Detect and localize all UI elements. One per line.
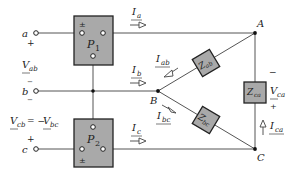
terminal-c: c +	[22, 134, 38, 155]
terminal-b: b − −	[22, 78, 38, 104]
p2-pm-mark: ±	[79, 156, 86, 165]
arrow-head-icon	[164, 70, 173, 77]
svg-text:A: A	[256, 18, 264, 29]
svg-text:Z: Z	[246, 87, 254, 97]
p1-sub: 1	[95, 44, 100, 53]
terminal-a-circle	[34, 31, 39, 36]
svg-text:bc: bc	[50, 121, 58, 129]
svg-text:bc: bc	[162, 116, 170, 124]
p1-pm-mark: ±	[79, 20, 86, 29]
p2-sub: 2	[95, 139, 100, 148]
p1-label: P	[86, 38, 95, 51]
junction-b	[91, 89, 95, 93]
wattmeter-p1: ± P 1	[74, 16, 113, 65]
svg-text:ab: ab	[29, 65, 38, 73]
p2-label: P	[86, 133, 95, 146]
circuit-diagram: a + b − − c + V ab V cb = − V bc ± P 1	[0, 0, 297, 178]
svg-text:+: +	[270, 102, 277, 111]
svg-text:a: a	[137, 12, 141, 20]
wattmeter-p2: P 2 ±	[74, 119, 113, 167]
svg-text:C: C	[257, 152, 265, 163]
p1-current-in-terminal	[80, 31, 85, 36]
current-ib: I b	[130, 64, 146, 86]
svg-text:−: −	[269, 67, 277, 77]
voltage-vcb-equation: V cb = − V bc	[10, 115, 58, 129]
p1-current-out-terminal	[101, 31, 106, 36]
arrow-head-icon	[260, 120, 266, 127]
node-c: C	[253, 147, 265, 163]
terminal-c-plus: +	[27, 134, 35, 144]
svg-text:cb: cb	[17, 121, 26, 129]
arrow-head-icon	[168, 107, 176, 113]
svg-text:c: c	[137, 128, 141, 136]
current-ic: I c	[130, 122, 146, 144]
terminal-a: a +	[22, 28, 38, 48]
p1-voltage-terminal	[91, 54, 96, 59]
svg-text:ca: ca	[254, 91, 261, 98]
p2-voltage-terminal	[91, 125, 96, 130]
arrow-head-icon	[139, 80, 146, 86]
terminal-b-minus-top: −	[27, 78, 33, 86]
terminal-c-circle	[34, 147, 39, 152]
current-ibc: I bc	[156, 105, 176, 124]
current-ia: I a	[130, 6, 146, 28]
p2-current-in-terminal	[80, 147, 85, 152]
terminal-c-label: c	[22, 144, 28, 155]
svg-text:B: B	[149, 95, 157, 106]
node-b: B	[149, 89, 160, 106]
svg-text:ab: ab	[161, 59, 170, 67]
terminal-b-circle	[34, 89, 39, 94]
svg-text:ca: ca	[275, 126, 283, 134]
svg-text:ca: ca	[277, 91, 285, 99]
svg-text:b: b	[137, 70, 142, 78]
current-ica: I ca	[260, 120, 284, 135]
arrow-head-icon	[139, 22, 146, 28]
node-a: A	[253, 18, 264, 35]
terminal-a-plus: +	[27, 38, 35, 48]
arrow-head-icon	[139, 138, 146, 144]
wires	[38, 33, 255, 149]
voltage-vab-label: V ab	[22, 59, 38, 73]
terminal-b-minus-bottom: −	[27, 96, 33, 104]
impedance-zbc: Z bc	[192, 106, 219, 133]
voltage-vca-label: − V ca +	[269, 67, 285, 111]
current-iab: I ab	[155, 53, 178, 77]
impedance-zca: Z ca	[244, 82, 266, 103]
impedance-zab: Z ab	[192, 49, 219, 76]
p2-current-out-terminal	[101, 147, 106, 152]
